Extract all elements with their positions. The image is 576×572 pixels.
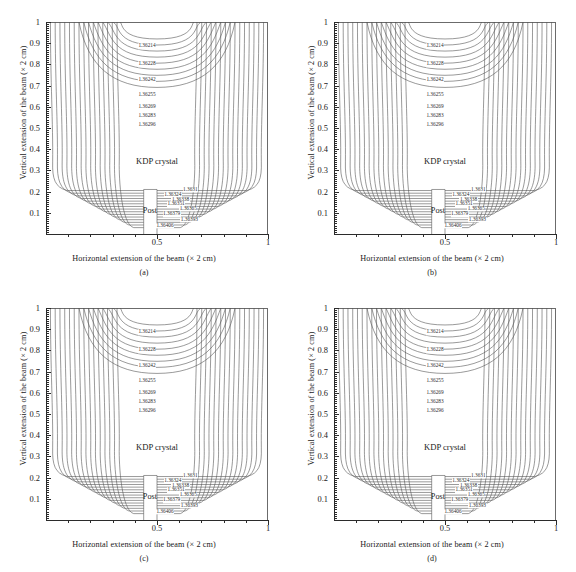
y-tick-major <box>46 107 51 108</box>
y-tick-minor <box>334 507 337 508</box>
y-tick-minor <box>46 126 49 127</box>
y-tick-minor <box>334 495 337 496</box>
y-tick-minor <box>334 230 337 231</box>
y-tick-minor <box>334 134 337 135</box>
contour-line <box>362 22 528 204</box>
y-tick-minor <box>46 416 49 417</box>
y-tick-minor <box>334 442 337 443</box>
contour-label-lower: 1.3631 <box>183 187 199 192</box>
y-tick-minor <box>334 336 337 337</box>
x-tick-minor <box>401 234 402 237</box>
panel-tag: (c) <box>0 554 288 563</box>
y-tick-minor <box>46 420 49 421</box>
y-tick-minor <box>334 60 337 61</box>
y-tick-minor <box>46 374 49 375</box>
y-tick-major <box>334 64 339 65</box>
y-tick-minor <box>46 219 49 220</box>
x-tick-label: 1 <box>266 524 270 533</box>
y-tick-minor <box>46 164 49 165</box>
y-tick-minor <box>46 200 49 201</box>
x-tick-minor <box>113 234 114 237</box>
y-tick-minor <box>334 126 337 127</box>
y-tick-label: 0.1 <box>30 208 40 217</box>
y-tick-minor <box>46 359 49 360</box>
y-tick-minor <box>46 469 49 470</box>
x-tick-minor <box>224 234 225 237</box>
y-tick-minor <box>334 166 337 167</box>
y-tick-label: 0.3 <box>318 452 328 461</box>
y-tick-minor <box>46 321 49 322</box>
y-tick-minor <box>46 173 49 174</box>
y-tick-label: 0.8 <box>318 346 328 355</box>
y-tick-label: 0.5 <box>30 124 40 133</box>
y-tick-major <box>46 128 51 129</box>
y-tick-minor <box>334 183 337 184</box>
y-tick-label: 0.7 <box>30 367 40 376</box>
y-tick-label: 0.7 <box>30 81 40 90</box>
y-tick-minor <box>46 486 49 487</box>
y-tick-minor <box>334 459 337 460</box>
kdp-crystal-label: KDP crystal <box>424 442 466 452</box>
y-tick-minor <box>334 202 337 203</box>
y-tick-major <box>46 170 51 171</box>
y-tick-label: 0.5 <box>318 124 328 133</box>
y-tick-minor <box>46 151 49 152</box>
y-tick-minor <box>334 514 337 515</box>
contour-label-upper: 1.36296 <box>138 408 156 413</box>
y-tick-minor <box>334 26 337 27</box>
y-tick-minor <box>334 342 337 343</box>
y-tick-minor <box>46 88 49 89</box>
contour-label-upper: 1.36242 <box>138 78 156 83</box>
y-tick-minor <box>46 316 49 317</box>
y-tick-minor <box>334 386 337 387</box>
y-tick-label: 0.6 <box>30 102 40 111</box>
y-tick-minor <box>334 198 337 199</box>
y-tick-minor <box>334 319 337 320</box>
y-tick-minor <box>46 427 49 428</box>
y-tick-minor <box>334 361 337 362</box>
y-tick-minor <box>334 136 337 137</box>
y-tick-minor <box>46 331 49 332</box>
y-tick-minor <box>46 518 49 519</box>
y-tick-minor <box>46 465 49 466</box>
x-tick-minor <box>512 520 513 523</box>
y-tick-label: 0.5 <box>318 410 328 419</box>
y-tick-minor <box>334 45 337 46</box>
y-tick-minor <box>46 139 49 140</box>
contour-label-upper: 1.36214 <box>138 330 156 335</box>
y-tick-minor <box>334 353 337 354</box>
contour-lines <box>334 22 556 234</box>
y-tick-minor <box>46 79 49 80</box>
y-tick-minor <box>46 319 49 320</box>
y-tick-minor <box>334 492 337 493</box>
y-tick-minor <box>334 512 337 513</box>
x-tick-label: 0.5 <box>152 524 162 533</box>
y-tick-minor <box>46 39 49 40</box>
x-tick-minor <box>113 520 114 523</box>
contour-line <box>353 308 538 484</box>
y-tick-minor <box>334 427 337 428</box>
y-tick-minor <box>46 399 49 400</box>
y-tick-minor <box>334 325 337 326</box>
y-tick-minor <box>334 448 337 449</box>
y-tick-minor <box>46 111 49 112</box>
y-tick-minor <box>334 480 337 481</box>
y-tick-minor <box>334 516 337 517</box>
y-tick-minor <box>334 497 337 498</box>
y-tick-minor <box>334 232 337 233</box>
y-tick-minor <box>334 24 337 25</box>
y-tick-minor <box>334 397 337 398</box>
y-tick-label: 1 <box>36 18 40 27</box>
y-tick-minor <box>334 444 337 445</box>
contour-line <box>79 308 235 492</box>
x-tick-minor <box>68 520 69 523</box>
x-tick-minor <box>90 520 91 523</box>
y-tick-minor <box>334 215 337 216</box>
y-tick-major <box>334 43 339 44</box>
y-tick-label: 0.1 <box>30 494 40 503</box>
y-tick-label: 0.7 <box>318 367 328 376</box>
y-tick-minor <box>46 204 49 205</box>
x-tick-minor <box>423 234 424 237</box>
y-tick-minor <box>334 465 337 466</box>
y-tick-minor <box>46 418 49 419</box>
